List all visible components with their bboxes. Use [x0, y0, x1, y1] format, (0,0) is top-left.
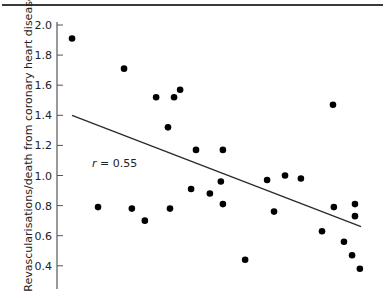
- y-axis: 2.01.81.61.41.21.00.80.60.4: [35, 19, 64, 289]
- data-point: [282, 172, 289, 179]
- data-point: [341, 238, 348, 245]
- data-point: [95, 204, 102, 211]
- data-point: [153, 94, 160, 101]
- data-point: [352, 213, 359, 220]
- data-point: [167, 205, 174, 212]
- y-tick-label: 1.4: [35, 109, 53, 122]
- data-point: [242, 256, 249, 263]
- data-point: [352, 201, 359, 208]
- data-point: [357, 266, 364, 273]
- y-tick-label: 0.6: [35, 230, 53, 243]
- y-tick-label: 2.0: [35, 19, 53, 32]
- data-point: [193, 147, 200, 154]
- data-point: [330, 101, 337, 108]
- y-tick-label: 0.4: [35, 260, 53, 273]
- y-tick-label: 1.2: [35, 139, 53, 152]
- data-point: [264, 177, 271, 184]
- data-point: [319, 228, 326, 235]
- data-points: [69, 35, 363, 272]
- data-point: [121, 65, 128, 72]
- data-point: [298, 175, 305, 182]
- y-tick-label: 1.6: [35, 79, 53, 92]
- data-point: [177, 86, 184, 93]
- y-tick-label: 0.8: [35, 200, 53, 213]
- data-point: [220, 201, 227, 208]
- y-tick-label: 1.0: [35, 170, 53, 183]
- data-point: [165, 124, 172, 131]
- data-point: [220, 147, 227, 154]
- correlation-annotation: r = 0.55: [92, 157, 137, 170]
- r-value: = 0.55: [97, 157, 138, 170]
- data-point: [171, 94, 178, 101]
- data-point: [207, 190, 214, 197]
- data-point: [129, 205, 136, 212]
- data-point: [271, 208, 278, 215]
- data-point: [69, 35, 76, 42]
- y-axis-label: Revascularisations/death from coronary h…: [22, 0, 35, 292]
- regression-line: [72, 115, 361, 226]
- data-point: [349, 252, 356, 259]
- y-tick-label: 1.8: [35, 49, 53, 62]
- data-point: [188, 186, 195, 193]
- data-point: [142, 217, 149, 224]
- data-point: [218, 178, 225, 185]
- data-point: [331, 204, 338, 211]
